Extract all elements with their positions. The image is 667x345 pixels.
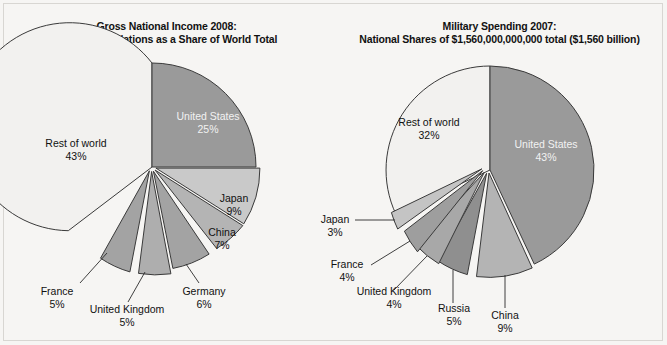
pie-label-france-left: France 5%	[28, 285, 86, 310]
pie-label-japan-right-name: Japan	[311, 213, 359, 226]
pie-label-france-right-percent: 4%	[321, 271, 373, 284]
pie-label-japan-left: Japan 9%	[208, 192, 260, 217]
pie-label-united-states-left-percent: 25%	[165, 123, 251, 136]
pie-label-france-left-name: France	[28, 285, 86, 298]
pie-label-rest-of-world-right-percent: 32%	[381, 129, 477, 142]
pie-label-germany-left-name: Germany	[173, 285, 235, 298]
pie-chart-figure: Gross National Income 2008: Six Leading …	[0, 0, 667, 345]
pie-label-united-states-left: United States 25%	[165, 110, 251, 135]
leader-line-united-kingdom-left	[128, 272, 145, 302]
pie-label-china-left-name: China	[196, 226, 248, 239]
pie-label-japan-left-percent: 9%	[208, 205, 260, 218]
pie-label-united-kingdom-right-name: United Kingdom	[341, 285, 447, 298]
pie-label-rest-of-world-right-name: Rest of world	[381, 116, 477, 129]
pie-label-japan-right: Japan 3%	[311, 213, 359, 238]
pie-slice-rest-of-world-left	[0, 23, 152, 231]
chart-panel-military-spending: Military Spending 2007: National Shares …	[333, 0, 666, 345]
pie-label-united-states-right-percent: 43%	[503, 151, 589, 164]
pie-label-china-right-name: China	[479, 309, 531, 322]
pie-label-china-left: China 7%	[196, 226, 248, 251]
pie-label-china-right: China 9%	[479, 309, 531, 334]
pie-label-france-right-name: France	[321, 258, 373, 271]
pie-label-japan-right-percent: 3%	[311, 226, 359, 239]
pie-label-germany-left-percent: 6%	[173, 298, 235, 311]
leader-line-france-right	[371, 241, 410, 265]
pie-label-united-states-right: United States 43%	[503, 138, 589, 163]
pie-label-united-kingdom-left: United Kingdom 5%	[74, 303, 180, 328]
pie-label-china-right-percent: 9%	[479, 322, 531, 335]
pie-label-russia-right-percent: 5%	[427, 315, 481, 328]
pie-label-japan-left-name: Japan	[208, 192, 260, 205]
pie-label-united-states-right-name: United States	[503, 138, 589, 151]
pie-label-rest-of-world-left: Rest of world 43%	[28, 137, 124, 162]
pie-label-france-right: France 4%	[321, 258, 373, 283]
pie-label-rest-of-world-right: Rest of world 32%	[381, 116, 477, 141]
pie-label-rest-of-world-left-percent: 43%	[28, 150, 124, 163]
pie-label-united-states-left-name: United States	[165, 110, 251, 123]
chart-panel-gross-national-income: Gross National Income 2008: Six Leading …	[0, 0, 333, 345]
pie-label-united-kingdom-left-percent: 5%	[74, 316, 180, 329]
pie-label-rest-of-world-left-name: Rest of world	[28, 137, 124, 150]
leader-line-france-left	[80, 253, 107, 283]
pie-label-united-kingdom-left-name: United Kingdom	[74, 303, 180, 316]
leader-line-germany-left	[186, 264, 199, 283]
pie-label-china-left-percent: 7%	[196, 239, 248, 252]
pie-label-france-left-percent: 5%	[28, 298, 86, 311]
pie-label-russia-right-name: Russia	[427, 302, 481, 315]
pie-label-russia-right: Russia 5%	[427, 302, 481, 327]
pie-label-germany-left: Germany 6%	[173, 285, 235, 310]
